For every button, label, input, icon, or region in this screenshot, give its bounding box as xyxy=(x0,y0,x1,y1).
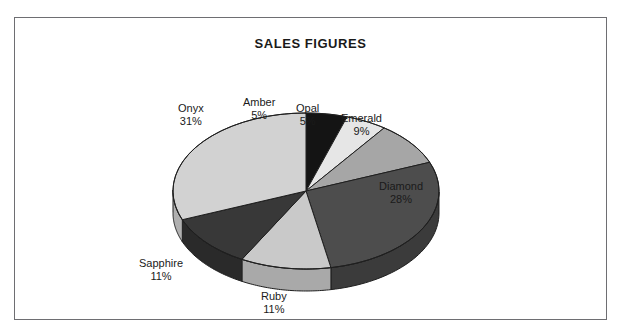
slice-name-opal: Opal xyxy=(296,102,319,115)
slice-label-amber: Amber 5% xyxy=(243,96,275,122)
slice-name-diamond: Diamond xyxy=(379,180,423,193)
pie-chart: Amber 5% Opal 5% Emerald 9% Diamond 28% … xyxy=(15,18,608,321)
chart-frame: SALES FIGURES Amber 5% Opal 5% Emerald 9… xyxy=(14,17,607,320)
slice-name-ruby: Ruby xyxy=(261,290,287,303)
slice-name-onyx: Onyx xyxy=(178,102,204,115)
slice-pct-emerald: 9% xyxy=(341,125,382,138)
slice-name-amber: Amber xyxy=(243,96,275,109)
slice-pct-diamond: 28% xyxy=(379,193,423,206)
slice-pct-sapphire: 11% xyxy=(139,270,183,283)
slice-label-onyx: Onyx 31% xyxy=(178,102,204,128)
slice-label-sapphire: Sapphire 11% xyxy=(139,257,183,283)
slice-name-emerald: Emerald xyxy=(341,112,382,125)
slice-pct-opal: 5% xyxy=(296,115,319,128)
pie-chart-svg xyxy=(15,18,608,321)
slice-label-ruby: Ruby 11% xyxy=(261,290,287,316)
slice-label-diamond: Diamond 28% xyxy=(379,180,423,206)
slice-pct-ruby: 11% xyxy=(261,303,287,316)
slice-pct-amber: 5% xyxy=(243,109,275,122)
slice-pct-onyx: 31% xyxy=(178,115,204,128)
slice-name-sapphire: Sapphire xyxy=(139,257,183,270)
slice-label-emerald: Emerald 9% xyxy=(341,112,382,138)
slice-label-opal: Opal 5% xyxy=(296,102,319,128)
